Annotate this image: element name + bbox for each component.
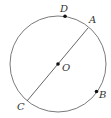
label-d: D (59, 3, 68, 14)
circle-diagram: D A O B C (0, 0, 111, 118)
label-c: C (17, 101, 25, 112)
label-a: A (88, 14, 96, 25)
point-o (56, 62, 60, 66)
label-b: B (98, 89, 106, 100)
point-b (95, 90, 99, 94)
label-o: O (62, 62, 70, 73)
point-d (63, 14, 67, 18)
